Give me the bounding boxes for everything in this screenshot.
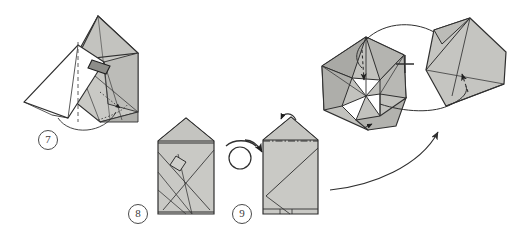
step-number-7: 7 — [38, 130, 58, 150]
assembly-illustration — [322, 18, 506, 130]
assembly-arrow-icon — [330, 132, 438, 190]
turn-over-icon — [226, 140, 262, 169]
turn-over-loop — [229, 147, 251, 169]
origami-diagram-svg — [0, 0, 511, 233]
step-8-roof — [158, 118, 214, 141]
open-module — [322, 37, 406, 130]
step-8-figure — [158, 118, 214, 214]
step-number-9: 9 — [232, 204, 252, 224]
step-7-right-band — [104, 53, 138, 112]
step-number-8: 8 — [128, 204, 148, 224]
origami-diagram-page: 7 8 9 — [0, 0, 511, 233]
step-7-figure — [24, 16, 138, 130]
step-9-roof — [263, 117, 318, 140]
step-9-figure — [263, 114, 318, 214]
